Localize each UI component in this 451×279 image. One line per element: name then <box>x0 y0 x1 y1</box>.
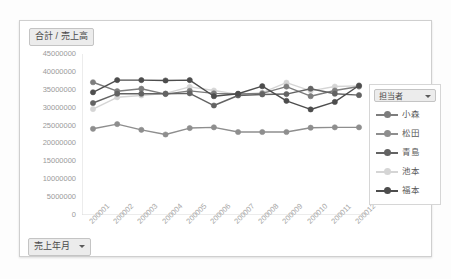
data-point <box>308 107 313 112</box>
series-line <box>93 89 359 106</box>
y-axis-tick: 30000000 <box>22 104 76 112</box>
data-point <box>260 92 265 97</box>
legend-marker-icon <box>384 187 391 194</box>
y-axis-tick: 35000000 <box>22 86 76 94</box>
legend-marker-icon <box>384 168 391 175</box>
legend-item-青島[interactable]: 青島 <box>376 145 440 161</box>
legend-item-label: 福本 <box>402 184 420 196</box>
legend-item-label: 松田 <box>402 127 420 139</box>
data-point <box>163 91 168 96</box>
data-point <box>284 84 289 89</box>
legend-item-label: 池本 <box>402 165 420 177</box>
data-point <box>187 125 192 130</box>
data-point <box>308 86 313 91</box>
data-point <box>284 98 289 103</box>
data-point <box>115 78 120 83</box>
legend-item-label: 青島 <box>402 146 420 158</box>
data-point <box>284 129 289 134</box>
data-point <box>115 122 120 127</box>
data-point <box>90 126 95 131</box>
data-point <box>332 125 337 130</box>
data-point <box>90 107 95 112</box>
y-axis-tick: 0 <box>22 211 76 219</box>
data-point <box>308 94 313 99</box>
data-point <box>332 99 337 104</box>
value-field-button[interactable]: 合計 / 売上高 <box>29 28 94 46</box>
row-field-label: 売上年月 <box>34 241 70 252</box>
legend-field-label: 担当者 <box>379 91 403 102</box>
y-axis-tick: 40000000 <box>22 68 76 76</box>
series-line <box>93 124 359 134</box>
plot-area <box>82 54 370 215</box>
data-point <box>211 125 216 130</box>
data-point <box>284 91 289 96</box>
data-point <box>139 86 144 91</box>
data-point <box>163 78 168 83</box>
data-point <box>163 132 168 137</box>
y-axis-tick: 45000000 <box>22 50 76 58</box>
series-福本 <box>90 78 361 113</box>
legend-marker-icon <box>384 111 391 118</box>
data-point <box>187 91 192 96</box>
y-axis-tick: 15000000 <box>22 157 76 165</box>
data-point <box>211 94 216 99</box>
data-point <box>115 91 120 96</box>
chart-frame: 合計 / 売上高 4500000040000000350000003000000… <box>19 20 432 257</box>
y-axis-tick: 25000000 <box>22 122 76 130</box>
data-point <box>139 91 144 96</box>
legend-field-button[interactable]: 担当者 <box>374 89 436 102</box>
data-point <box>260 129 265 134</box>
data-point <box>90 100 95 105</box>
row-field-button[interactable]: 売上年月 <box>28 238 91 256</box>
legend-item-小森[interactable]: 小森 <box>376 107 440 123</box>
data-point <box>211 103 216 108</box>
legend-item-福本[interactable]: 福本 <box>376 183 440 199</box>
data-point <box>187 78 192 83</box>
y-axis-tick: 5000000 <box>22 193 76 201</box>
legend-marker-icon <box>384 149 391 156</box>
chart-canvas <box>82 54 370 215</box>
legend-item-label: 小森 <box>402 108 420 120</box>
pivot-chart-screen: 合計 / 売上高 4500000040000000350000003000000… <box>0 0 451 279</box>
data-point <box>90 90 95 95</box>
legend-item-松田[interactable]: 松田 <box>376 126 440 142</box>
data-point <box>139 78 144 83</box>
series-松田 <box>90 122 361 138</box>
data-point <box>308 125 313 130</box>
data-point <box>356 125 361 130</box>
data-point <box>260 84 265 89</box>
legend-marker-icon <box>384 130 391 137</box>
legend-panel: 担当者 小森松田青島池本福本 <box>369 84 441 205</box>
data-point <box>332 91 337 96</box>
y-axis-tick: 20000000 <box>22 139 76 147</box>
y-axis-tick: 10000000 <box>22 175 76 183</box>
data-point <box>139 127 144 132</box>
data-point <box>356 83 361 88</box>
data-point <box>235 129 240 134</box>
data-point <box>356 93 361 98</box>
legend-item-池本[interactable]: 池本 <box>376 164 440 180</box>
data-point <box>90 80 95 85</box>
chevron-down-icon <box>425 95 431 98</box>
series-line <box>93 83 359 109</box>
chevron-down-icon <box>79 245 85 248</box>
data-point <box>235 91 240 96</box>
